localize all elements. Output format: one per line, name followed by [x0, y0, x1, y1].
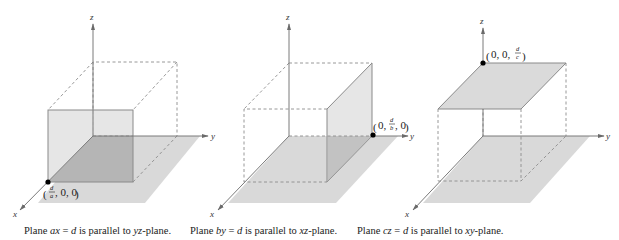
dashed-box-edge [244, 63, 289, 109]
figure-plane-ax: z y x ( d a , 0, 0 ) [12, 12, 215, 219]
svg-text:): ) [522, 50, 526, 63]
y-axis-label: y [605, 131, 610, 141]
xy-floor-plane [228, 136, 398, 203]
dashed-box-edge [48, 62, 93, 110]
plane-xy-parallel [438, 63, 566, 109]
svg-text:(: ( [43, 188, 47, 201]
svg-text:(: ( [486, 50, 490, 63]
svg-text:b: b [390, 124, 394, 131]
y-axis-label: y [409, 131, 414, 141]
svg-text:d: d [516, 45, 520, 52]
xy-floor-plane [423, 136, 590, 203]
point-label: ( 0, d b , 0 ) [373, 116, 409, 134]
svg-text:c: c [516, 53, 519, 60]
caption-plane-cz: Plane cz = d is parallel to xy-plane. [357, 225, 503, 236]
point-marker [370, 132, 375, 137]
svg-text:a: a [50, 192, 53, 199]
point-label: ( 0, 0, d c ) [486, 45, 526, 63]
dashed-box-edge [133, 62, 177, 110]
z-axis-label: z [479, 16, 484, 26]
caption-plane-by: Plane by = d is parallel to xz-plane. [190, 225, 337, 236]
z-axis-label: z [285, 12, 290, 22]
svg-text:d: d [390, 116, 394, 123]
x-axis-label: x [404, 209, 409, 219]
svg-text:0,: 0, [378, 119, 387, 131]
svg-text:0, 0,: 0, 0, [491, 48, 511, 60]
y-axis-label: y [210, 131, 215, 141]
svg-text:(: ( [373, 121, 377, 134]
x-axis-label: x [12, 209, 17, 219]
point-marker [480, 60, 485, 65]
svg-text:): ) [75, 188, 79, 201]
caption-plane-ax: Plane ax = d is parallel to yz-plane. [24, 225, 171, 236]
diagram-canvas: z y x ( d a , 0, 0 ) z y x [0, 0, 619, 240]
z-axis-label: z [89, 12, 94, 22]
svg-text:): ) [405, 121, 409, 134]
figure-plane-by: z y x ( 0, d b , 0 ) [209, 12, 414, 219]
x-axis-label: x [209, 209, 214, 219]
figure-plane-cz: z y x ( 0, 0, d c ) [404, 16, 610, 219]
